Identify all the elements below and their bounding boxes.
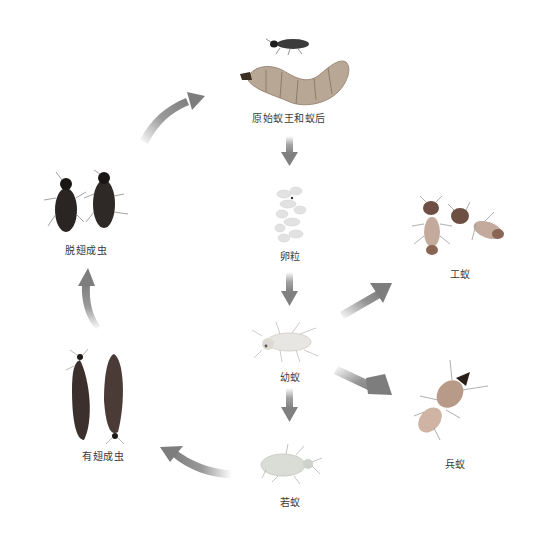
larva-illustration (252, 322, 318, 362)
eggs-illustration (275, 187, 306, 242)
label-worker: 工蚁 (450, 266, 471, 281)
king-termite-illustration (266, 39, 309, 55)
dealate-termites-illustration (44, 170, 128, 232)
label-dealate: 脱翅成虫 (65, 242, 107, 257)
label-nymph: 若蚁 (280, 494, 301, 509)
worker-termites-illustration (412, 196, 505, 255)
termite-life-cycle-diagram: 原始蚁王和蚁后 卵粒 幼蚁 若蚁 工蚁 兵蚁 有翅成虫 脱翅成虫 (0, 0, 539, 537)
soldier-termite-illustration (413, 360, 488, 440)
label-alate: 有翅成虫 (82, 448, 124, 463)
label-larva: 幼蚁 (280, 369, 301, 384)
nymph-illustration (261, 444, 322, 484)
alate-termites-illustration (66, 349, 124, 444)
label-soldier: 兵蚁 (445, 456, 466, 471)
label-eggs: 卵粒 (280, 248, 301, 263)
label-king-and-queen: 原始蚁王和蚁后 (252, 110, 326, 125)
queen-termite-illustration (240, 61, 349, 105)
